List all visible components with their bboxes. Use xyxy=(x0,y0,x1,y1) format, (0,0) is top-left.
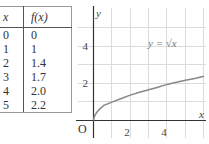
sqrt-graph: y x O 2 4 2 4 y = √x xyxy=(0,0,209,144)
x-tick-label: 2 xyxy=(124,126,130,138)
x-tick-label: 4 xyxy=(161,126,167,138)
origin-label: O xyxy=(78,122,87,136)
grid xyxy=(78,8,206,138)
x-axis-label: x xyxy=(198,108,204,120)
curve-label: y = √x xyxy=(147,37,177,49)
y-axis-label: y xyxy=(95,7,101,19)
y-tick-label: 4 xyxy=(83,40,89,52)
y-tick-label: 2 xyxy=(83,77,89,89)
